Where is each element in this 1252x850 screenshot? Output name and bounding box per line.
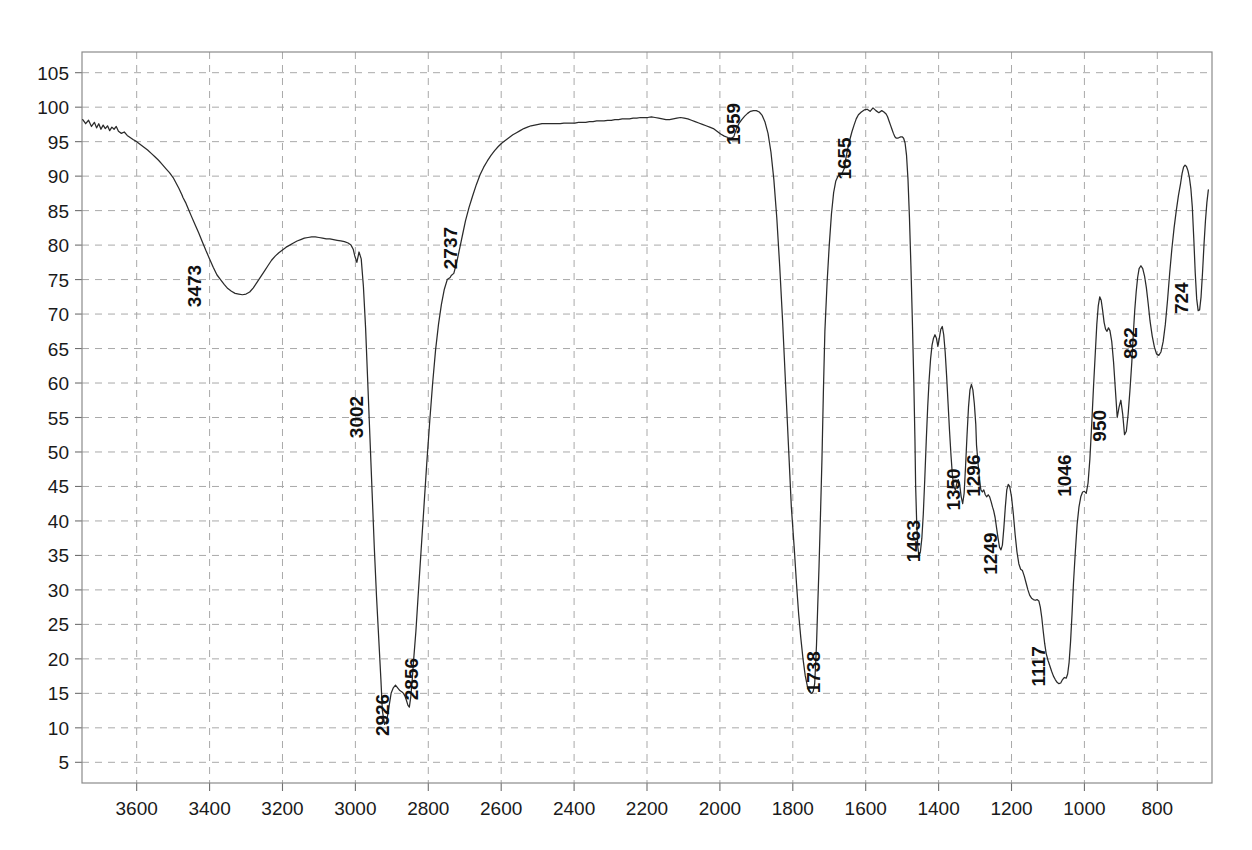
peak-label-1350: 1350 [943,468,964,510]
peak-label-3002: 3002 [346,396,367,438]
x-axis-tick-label: 1000 [1063,798,1105,819]
x-axis-tick-label: 2600 [480,798,522,819]
y-axis-tick-label: 25 [48,614,69,635]
y-axis-tick-label: 55 [48,408,69,429]
peak-label-1249: 1249 [980,532,1001,574]
peak-label-1296: 1296 [963,455,984,497]
peak-label-1738: 1738 [803,651,824,693]
peak-annotation: 1046 [1054,455,1075,497]
spectrum-trace-layer [83,108,1209,725]
peak-label-1959: 1959 [723,103,744,145]
x-axis-tick-label: 1600 [845,798,887,819]
peak-label-724: 724 [1171,282,1192,314]
peak-annotation: 3473 [184,265,205,307]
peak-label-950: 950 [1089,410,1110,442]
y-axis-tick-label: 60 [48,373,69,394]
x-axis-tick-label: 2000 [699,798,741,819]
peak-label-1046: 1046 [1054,455,1075,497]
y-axis-tick-label: 45 [48,476,69,497]
x-axis-tick-label: 1400 [917,798,959,819]
peak-label-2856: 2856 [401,658,422,700]
peak-annotation: 1655 [834,137,855,180]
peak-annotation: 1959 [723,103,744,145]
y-axis-tick-label: 80 [48,235,69,256]
y-axis-tick-label: 40 [48,511,69,532]
x-axis-tick-label: 2200 [626,798,668,819]
y-axis-tick-label: 95 [48,132,69,153]
ir-spectrum-chart: 5101520253035404550556065707580859095100… [0,0,1252,850]
y-axis-tick-label: 90 [48,166,69,187]
x-axis-tick-label: 1800 [772,798,814,819]
peak-label-2737: 2737 [440,227,461,269]
y-axis-tick-label: 70 [48,304,69,325]
peak-annotation: 950 [1089,410,1110,442]
x-axis-tick-label: 3600 [116,798,158,819]
peak-annotation: 2737 [440,227,461,269]
spectrum-trace [83,108,1209,725]
peak-label-1655: 1655 [834,137,855,180]
peak-annotation: 1117 [1028,646,1049,686]
x-axis-labels: 3600340032003000280026002400220020001800… [116,798,1174,819]
y-axis-tick-label: 65 [48,339,69,360]
y-axis-tick-label: 30 [48,580,69,601]
peak-label-layer: 3473300229262856273719591655173814631350… [184,103,1192,736]
y-axis-tick-label: 100 [37,97,69,118]
x-axis-tick-label: 800 [1141,798,1173,819]
y-axis-tick-label: 10 [48,718,69,739]
peak-annotation: 3002 [346,396,367,438]
y-axis-labels: 5101520253035404550556065707580859095100… [37,63,69,774]
y-axis-tick-label: 50 [48,442,69,463]
peak-label-1463: 1463 [903,520,924,562]
x-axis-tick-label: 1200 [990,798,1032,819]
peak-annotation: 2856 [401,658,422,700]
y-axis-tick-label: 75 [48,270,69,291]
x-axis-tick-label: 3400 [188,798,230,819]
y-axis-tick-label: 85 [48,201,69,222]
peak-annotation: 2926 [372,694,393,736]
x-axis-tick-label: 2400 [553,798,595,819]
peak-annotation: 724 [1171,282,1192,314]
peak-label-2926: 2926 [372,694,393,736]
peak-annotation: 1350 [943,468,964,510]
y-axis-tick-label: 35 [48,545,69,566]
peak-label-3473: 3473 [184,265,205,307]
peak-annotation: 1463 [903,520,924,562]
tickmark-layer [75,73,1157,791]
peak-annotation: 1249 [980,532,1001,574]
x-axis-tick-label: 3200 [261,798,303,819]
x-axis-tick-label: 3000 [334,798,376,819]
peak-annotation: 1738 [803,651,824,693]
y-axis-tick-label: 105 [37,63,69,84]
y-axis-tick-label: 5 [58,752,69,773]
y-axis-tick-label: 15 [48,683,69,704]
x-axis-tick-label: 2800 [407,798,449,819]
y-axis-tick-label: 20 [48,649,69,670]
peak-annotation: 1296 [963,455,984,497]
peak-label-862: 862 [1120,327,1141,359]
spectrum-plot-area: 5101520253035404550556065707580859095100… [0,0,1252,850]
peak-annotation: 862 [1120,327,1141,359]
peak-label-1117: 1117 [1028,646,1049,686]
